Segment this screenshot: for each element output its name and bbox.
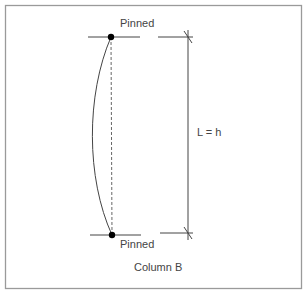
column-b-buckling-diagram: Pinned Pinned L = h Column B (0, 0, 308, 296)
bottom-support-label: Pinned (120, 238, 154, 250)
top-pin-node-icon (108, 34, 114, 40)
diagram-title: Column B (134, 261, 182, 273)
buckled-column-shape (92, 37, 112, 235)
undeformed-column-axis (111, 37, 112, 235)
bottom-pin-node-icon (109, 232, 115, 238)
length-label: L = h (197, 126, 221, 138)
top-support-label: Pinned (120, 17, 154, 29)
